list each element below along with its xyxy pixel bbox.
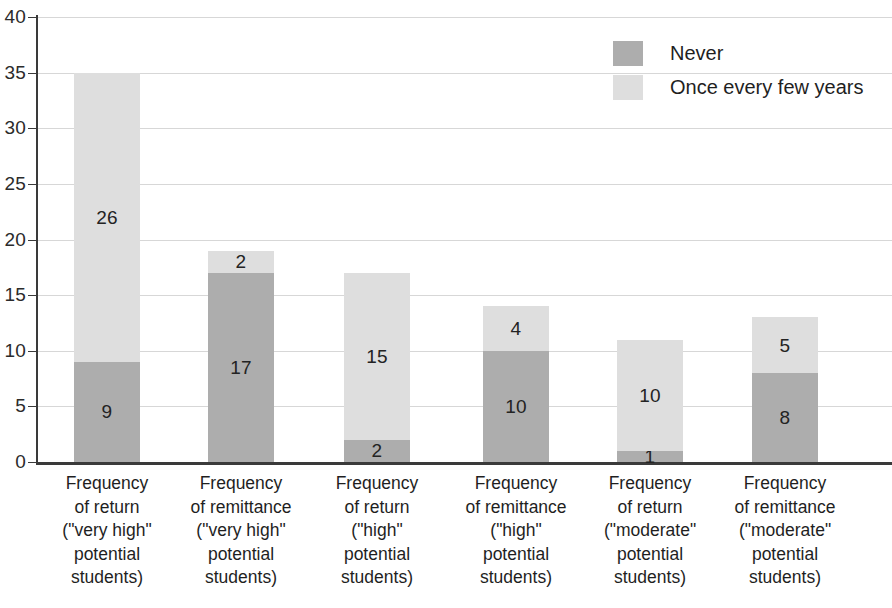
x-axis-label-line: Frequency <box>711 472 859 496</box>
x-axis-label-line: potential <box>711 543 859 567</box>
bar-segment: 9 <box>74 362 140 462</box>
x-axis-label-line: potential <box>303 543 451 567</box>
bar-value-label: 15 <box>366 347 388 366</box>
bar-segment: 15 <box>344 273 410 440</box>
stacked-bar-chart: 4035302520151050 92617221510411085 Never… <box>0 0 892 608</box>
x-axis-label-line: ("very high" <box>33 519 181 543</box>
x-axis-label: Frequencyof return("very high"potentials… <box>33 472 181 590</box>
x-axis-label-line: ("moderate" <box>711 519 859 543</box>
x-axis-label-line: of return <box>303 496 451 520</box>
x-axis-label-line: ("high" <box>303 519 451 543</box>
x-axis-label: Frequencyof return("high"potentialstuden… <box>303 472 451 590</box>
bar-group: 110 <box>617 340 683 462</box>
x-axis-label-line: potential <box>33 543 181 567</box>
x-axis-label-line: students) <box>576 566 724 590</box>
bar-group: 104 <box>483 306 549 462</box>
chart-legend: NeverOnce every few years <box>613 36 888 104</box>
bar-segment: 1 <box>617 451 683 462</box>
bar-segment: 10 <box>617 340 683 451</box>
legend-label: Never <box>670 43 723 63</box>
bar-value-label: 8 <box>780 408 791 427</box>
x-axis-label-line: students) <box>303 566 451 590</box>
x-axis-label-line: ("high" <box>442 519 590 543</box>
x-axis-label-line: of return <box>576 496 724 520</box>
x-axis-label-line: potential <box>576 543 724 567</box>
x-axis-labels: Frequencyof return("very high"potentials… <box>0 472 892 608</box>
x-axis-label-line: of remittance <box>711 496 859 520</box>
bar-value-label: 2 <box>236 252 247 271</box>
bar-value-label: 10 <box>505 397 527 416</box>
x-axis-label-line: Frequency <box>576 472 724 496</box>
bar-value-label: 4 <box>511 319 522 338</box>
bar-segment: 26 <box>74 73 140 362</box>
bar-group: 172 <box>208 251 274 462</box>
bar-value-label: 26 <box>96 208 118 227</box>
x-axis-label-line: Frequency <box>33 472 181 496</box>
bar-segment: 2 <box>208 251 274 273</box>
x-axis-label-line: students) <box>167 566 315 590</box>
bar-segment: 17 <box>208 273 274 462</box>
bar-group: 215 <box>344 273 410 462</box>
bar-value-label: 5 <box>780 336 791 355</box>
legend-swatch <box>613 75 643 100</box>
bar-value-label: 17 <box>230 358 252 377</box>
x-axis-label-line: Frequency <box>442 472 590 496</box>
x-axis-label-line: Frequency <box>167 472 315 496</box>
legend-item[interactable]: Once every few years <box>613 70 888 104</box>
bar-segment: 4 <box>483 306 549 351</box>
bar-segment: 5 <box>752 317 818 373</box>
bar-segment: 10 <box>483 351 549 462</box>
x-axis-label: Frequencyof remittance("moderate"potenti… <box>711 472 859 590</box>
legend-item[interactable]: Never <box>613 36 888 70</box>
x-axis-label: Frequencyof return("moderate"potentialst… <box>576 472 724 590</box>
bar-segment: 8 <box>752 373 818 462</box>
legend-label: Once every few years <box>670 77 863 97</box>
bar-value-label: 10 <box>639 386 661 405</box>
x-axis-label-line: students) <box>711 566 859 590</box>
x-axis-label-line: potential <box>442 543 590 567</box>
legend-swatch <box>613 41 643 66</box>
x-axis-label-line: ("moderate" <box>576 519 724 543</box>
x-axis-label-line: of remittance <box>167 496 315 520</box>
x-axis-label-line: of return <box>33 496 181 520</box>
x-axis-label-line: students) <box>442 566 590 590</box>
x-axis-label-line: potential <box>167 543 315 567</box>
x-axis-label-line: students) <box>33 566 181 590</box>
x-axis-label-line: of remittance <box>442 496 590 520</box>
bar-group: 85 <box>752 317 818 462</box>
x-axis-label-line: Frequency <box>303 472 451 496</box>
bar-value-label: 2 <box>372 441 383 460</box>
x-axis-label-line: ("very high" <box>167 519 315 543</box>
x-axis-label: Frequencyof remittance("high"potentialst… <box>442 472 590 590</box>
bar-group: 926 <box>74 73 140 462</box>
bar-segment: 2 <box>344 440 410 462</box>
x-axis-label: Frequencyof remittance("very high"potent… <box>167 472 315 590</box>
bar-value-label: 9 <box>102 402 113 421</box>
